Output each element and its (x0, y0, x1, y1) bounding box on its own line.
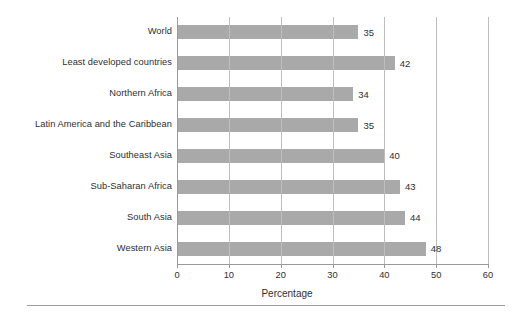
gridline-top-20 (281, 17, 282, 264)
x-tick-40 (384, 264, 385, 268)
bar (177, 180, 400, 194)
gridline-top-0 (177, 17, 178, 264)
gridline-top-50 (436, 17, 437, 264)
gridline-top-40 (384, 17, 385, 264)
bar-value-label: 43 (405, 181, 416, 192)
bar (177, 118, 358, 132)
bar-value-label: 48 (431, 243, 442, 254)
x-tick-label: 0 (165, 270, 189, 281)
bottom-rule-divider (27, 305, 505, 306)
category-label: Western Asia (0, 243, 172, 254)
plot-area: 3542343540434448 (177, 17, 488, 264)
bar (177, 87, 353, 101)
gridline-top-30 (333, 17, 334, 264)
bar (177, 56, 395, 70)
bar-value-label: 40 (389, 150, 400, 161)
x-tick-30 (333, 264, 334, 268)
category-label: Northern Africa (0, 88, 172, 99)
category-label: Latin America and the Caribbean (0, 119, 172, 130)
bar (177, 242, 426, 256)
x-tick-50 (436, 264, 437, 268)
x-tick-label: 20 (269, 270, 293, 281)
category-label: Sub-Saharan Africa (0, 181, 172, 192)
bar-chart: WorldLeast developed countriesNorthern A… (0, 0, 518, 323)
x-tick-label: 10 (217, 270, 241, 281)
category-label: Least developed countries (0, 57, 172, 68)
bar-value-label: 42 (400, 58, 411, 69)
bar-value-label: 34 (358, 89, 369, 100)
x-tick-label: 30 (321, 270, 345, 281)
x-tick-60 (488, 264, 489, 268)
category-label: South Asia (0, 212, 172, 223)
x-tick-label: 60 (476, 270, 500, 281)
category-label: Southeast Asia (0, 150, 172, 161)
x-tick-0 (177, 264, 178, 268)
x-axis-title: Percentage (0, 288, 518, 300)
x-tick-label: 50 (424, 270, 448, 281)
bar (177, 211, 405, 225)
category-label: World (0, 26, 172, 37)
bar-value-label: 35 (363, 27, 374, 38)
bar (177, 25, 358, 39)
x-tick-10 (229, 264, 230, 268)
gridline-top-60 (488, 17, 489, 264)
x-tick-20 (281, 264, 282, 268)
category-axis: WorldLeast developed countriesNorthern A… (0, 17, 172, 264)
bar-value-label: 35 (363, 120, 374, 131)
gridline-top-10 (229, 17, 230, 264)
bar-value-label: 44 (410, 212, 421, 223)
x-tick-label: 40 (372, 270, 396, 281)
